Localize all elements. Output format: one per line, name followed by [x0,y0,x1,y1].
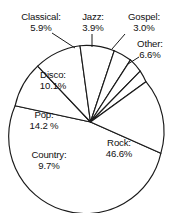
pie-label-rock-value: 46.6% [92,149,146,160]
pie-label-disco-name: Disco: [28,70,78,81]
pie-label-jazz-name: Jazz: [72,12,114,23]
pie-label-other: Other: 6.6% [124,39,176,60]
pie-label-jazz-value: 3.9% [72,23,114,34]
pie-label-gospel: Gospel: 3.0% [118,12,170,33]
pie-label-country-value: 9.7% [20,161,78,172]
pie-label-pop-name: Pop: [18,110,70,121]
pie-label-other-name: Other: [124,39,176,50]
pie-chart: Classical: 5.9% Jazz: 3.9% Gospel: 3.0% … [0,0,180,213]
pie-label-other-value: 6.6% [124,50,176,61]
pie-label-rock: Rock: 46.6% [92,138,146,159]
pie-label-country-name: Country: [20,150,78,161]
pie-label-country: Country: 9.7% [20,150,78,171]
pie-label-classical-value: 5.9% [10,23,72,34]
pie-label-classical: Classical: 5.9% [10,12,72,33]
pie-label-pop: Pop: 14.2 % [18,110,70,131]
pie-label-gospel-name: Gospel: [118,12,170,23]
pie-label-disco: Disco: 10.1% [28,70,78,91]
pie-label-pop-value: 14.2 % [18,121,70,132]
pie-label-gospel-value: 3.0% [118,23,170,34]
pie-label-jazz: Jazz: 3.9% [72,12,114,33]
pie-label-disco-value: 10.1% [28,81,78,92]
leader-line-classical [52,33,75,48]
pie-label-rock-name: Rock: [92,138,146,149]
pie-label-classical-name: Classical: [10,12,72,23]
